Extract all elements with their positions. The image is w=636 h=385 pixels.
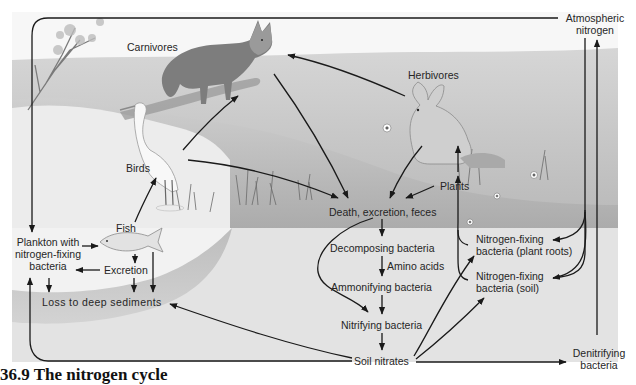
label-amino-acids: Amino acids xyxy=(387,260,444,272)
label-excretion: Excretion xyxy=(104,264,148,276)
nfix-roots-line-1: Nitrogen-fixing xyxy=(476,233,572,245)
label-nfix-soil: Nitrogen-fixing bacteria (soil) xyxy=(476,270,544,294)
label-decomposing-bacteria: Decomposing bacteria xyxy=(330,242,434,254)
label-plankton: Plankton with nitrogen-fixing bacteria xyxy=(10,236,86,272)
label-loss-to-sediments: Loss to deep sediments xyxy=(42,296,162,308)
atmospheric-line-2: nitrogen xyxy=(558,24,632,36)
label-soil-nitrates: Soil nitrates xyxy=(354,355,409,367)
label-nitrifying-bacteria: Nitrifying bacteria xyxy=(341,319,422,331)
denitrifying-line-2: bacteria xyxy=(564,359,634,371)
atmospheric-line-1: Atmospheric xyxy=(558,12,632,24)
plankton-line-1: Plankton with xyxy=(10,236,86,248)
nfix-soil-line-1: Nitrogen-fixing xyxy=(476,270,544,282)
label-denitrifying-bacteria: Denitrifying bacteria xyxy=(564,347,634,371)
label-atmospheric-nitrogen: Atmospheric nitrogen xyxy=(558,12,632,36)
label-nfix-plant-roots: Nitrogen-fixing bacteria (plant roots) xyxy=(476,233,572,257)
label-carnivores: Carnivores xyxy=(127,41,178,53)
nfix-soil-line-2: bacteria (soil) xyxy=(476,282,544,294)
label-fish: Fish xyxy=(116,222,136,234)
nfix-roots-line-2: bacteria (plant roots) xyxy=(476,245,572,257)
label-herbivores: Herbivores xyxy=(408,69,459,81)
label-death-excretion-feces: Death, excretion, feces xyxy=(329,206,436,218)
plankton-line-2: nitrogen-fixing xyxy=(10,248,86,260)
plankton-line-3: bacteria xyxy=(10,260,86,272)
label-plants: Plants xyxy=(440,180,469,192)
denitrifying-line-1: Denitrifying xyxy=(564,347,634,359)
label-birds: Birds xyxy=(126,162,150,174)
figure-caption: 36.9 The nitrogen cycle xyxy=(0,365,167,385)
label-ammonifying-bacteria: Ammonifying bacteria xyxy=(331,281,432,293)
